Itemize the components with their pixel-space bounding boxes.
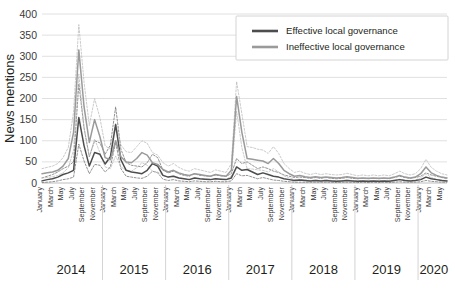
year-label: 2020 [419,262,448,277]
x-axis-tick-label: July [256,187,265,200]
x-axis-tick-label: September [330,186,339,222]
x-axis-tick-label: July [319,187,328,200]
x-axis-tick-label: May [245,187,254,201]
x-axis-tick-label: May [435,187,444,201]
year-label: 2014 [56,262,85,277]
x-axis-tick-label: November [88,186,97,220]
x-axis-tick-label: March [298,187,307,207]
y-axis-tick-label: 50 [25,155,37,167]
year-label: 2017 [246,262,275,277]
y-axis-title: News mentions [2,54,17,143]
x-axis-tick-label: September [393,186,402,222]
legend-label: Effective local governance [286,25,398,36]
y-axis-tick-label: 100 [19,134,37,146]
x-axis-tick-label: November [340,186,349,220]
x-axis-tick-label: March [235,187,244,207]
x-axis-tick-label: January [35,187,44,213]
y-axis-tick-label: 350 [19,29,37,41]
x-axis-tick-label: May [56,187,65,201]
x-axis-tick-label: September [266,186,275,222]
news-mentions-chart: 050100150200250300350400News mentionsJan… [0,0,455,288]
x-axis-tick-label: July [130,187,139,200]
x-axis-tick-label: May [372,187,381,201]
y-axis-tick-label: 0 [31,177,37,189]
x-axis-tick-label: July [193,187,202,200]
x-axis-tick-label: March [109,187,118,207]
x-axis-tick-label: March [172,187,181,207]
x-axis-group: JanuaryMarchMayJulySeptemberNovemberJanu… [35,185,448,280]
x-axis-tick-label: November [214,186,223,220]
legend: Effective local governanceIneffective lo… [236,16,448,60]
x-axis-tick-label: July [67,187,76,200]
x-axis-tick-label: November [277,186,286,220]
legend-label: Ineffective local governance [286,41,405,52]
x-axis-tick-label: March [424,187,433,207]
x-axis-tick-label: November [151,186,160,220]
x-axis-tick-label: March [46,187,55,207]
x-axis-tick-label: March [361,187,370,207]
y-axis-tick-label: 300 [19,50,37,62]
y-axis-tick-label: 200 [19,92,37,104]
confidence-interval-line [42,74,447,181]
x-axis-tick-label: September [77,186,86,222]
x-axis-tick-label: May [309,187,318,201]
y-axis-tick-label: 250 [19,71,37,83]
x-axis-tick-label: May [119,187,128,201]
x-axis-tick-label: September [140,186,149,222]
legend-box [236,16,448,60]
x-axis-tick-label: November [403,186,412,220]
y-axis-tick-label: 400 [19,8,37,20]
x-axis-tick-label: May [182,187,191,201]
chart-canvas: 050100150200250300350400News mentionsJan… [0,0,455,288]
x-axis-tick-label: September [203,186,212,222]
year-label: 2019 [372,262,401,277]
y-axis-tick-label: 150 [19,113,37,125]
x-axis-tick-label: July [382,187,391,200]
year-label: 2015 [120,262,149,277]
year-label: 2016 [183,262,212,277]
year-label: 2018 [309,262,338,277]
